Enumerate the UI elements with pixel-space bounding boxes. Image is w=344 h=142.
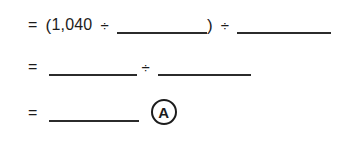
- line-3-blank-1[interactable]: [49, 105, 139, 122]
- equation-line-3: = A: [0, 96, 344, 130]
- line-1-division-sign-1: ÷: [100, 18, 108, 33]
- worksheet-problem: = ( 1,040 ÷ ) ÷ = ÷ = A: [0, 0, 344, 142]
- line-2-equals-sign: =: [28, 59, 38, 75]
- line-1-division-sign-2: ÷: [221, 18, 229, 33]
- line-1-blank-1[interactable]: [117, 17, 207, 34]
- equation-line-2: = ÷: [0, 50, 344, 84]
- line-3-equals-sign: =: [28, 105, 38, 121]
- line-1-close-paren: ): [207, 17, 213, 34]
- circled-answer-marker[interactable]: A: [151, 99, 177, 125]
- line-2-division-sign: ÷: [142, 60, 150, 75]
- line-1-equals-sign: =: [28, 17, 38, 33]
- equation-line-1: = ( 1,040 ÷ ) ÷: [0, 8, 344, 42]
- line-1-dividend: 1,040: [51, 17, 92, 33]
- line-1-blank-2[interactable]: [237, 17, 331, 34]
- line-2-blank-1[interactable]: [49, 59, 137, 76]
- line-2-blank-2[interactable]: [158, 59, 251, 76]
- circled-answer-letter: A: [153, 101, 175, 123]
